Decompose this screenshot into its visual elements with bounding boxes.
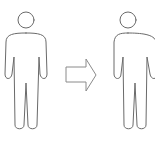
before-after-diagram bbox=[0, 0, 155, 142]
arrow-right-icon bbox=[66, 59, 96, 91]
person-after-icon bbox=[114, 12, 155, 129]
person-before-icon bbox=[5, 12, 47, 129]
